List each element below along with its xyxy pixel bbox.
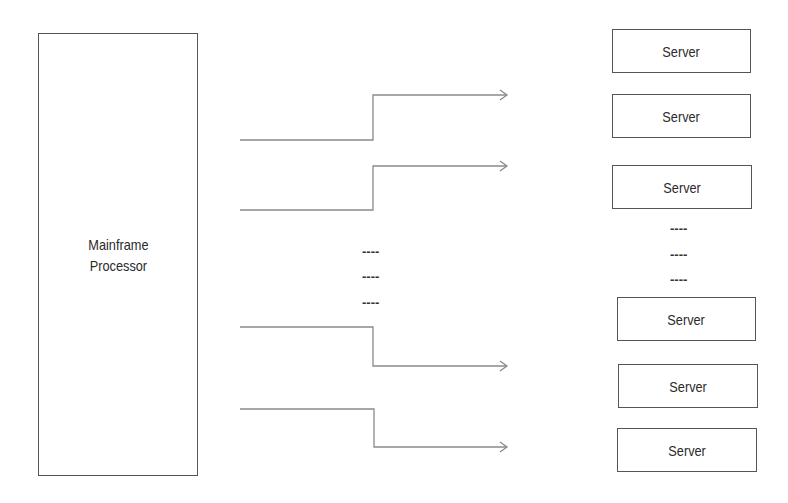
connector-4: [240, 409, 507, 447]
server-label: Server: [668, 311, 706, 328]
server-label: Server: [663, 43, 701, 60]
server-label: Server: [663, 108, 701, 125]
connector-3: [240, 327, 507, 366]
server-box-4: Server: [617, 297, 756, 341]
server-label: Server: [669, 378, 707, 395]
connector-1: [240, 95, 507, 140]
server-box-6: Server: [617, 428, 757, 472]
middle-ellipsis-2: ----: [362, 272, 379, 282]
middle-ellipsis-1: ----: [362, 247, 379, 257]
server-box-2: Server: [612, 94, 751, 138]
middle-ellipsis-3: ----: [362, 298, 379, 308]
server-box-1: Server: [612, 29, 751, 73]
right-ellipsis-2: ----: [670, 250, 687, 260]
server-label: Server: [663, 179, 701, 196]
server-label: Server: [668, 442, 706, 459]
server-box-5: Server: [618, 364, 758, 408]
right-ellipsis-1: ----: [670, 224, 687, 234]
connector-2: [240, 166, 507, 210]
right-ellipsis-3: ----: [670, 275, 687, 285]
server-box-3: Server: [612, 165, 752, 209]
